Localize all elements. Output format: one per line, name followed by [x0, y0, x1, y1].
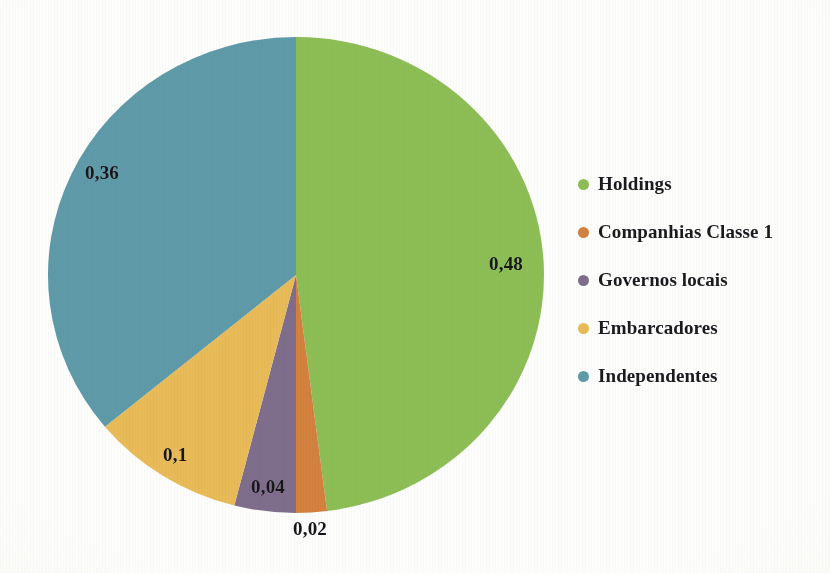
pie-slice-value-label: 0,48	[489, 253, 523, 275]
pie-slice-value-label: 0,04	[251, 476, 285, 498]
legend-item-label: Holdings	[598, 173, 672, 195]
pie-slice-value-label: 0,36	[85, 162, 119, 184]
legend-item[interactable]: Governos locais	[578, 256, 828, 304]
pie-chart-figure: 0,480,020,040,10,36 HoldingsCompanhias C…	[0, 0, 830, 573]
chart-legend: HoldingsCompanhias Classe 1Governos loca…	[578, 160, 828, 400]
legend-item[interactable]: Independentes	[578, 352, 828, 400]
pie-slices-group	[48, 37, 544, 513]
pie-slice-value-label: 0,1	[163, 444, 187, 466]
legend-item-label: Independentes	[598, 365, 718, 387]
legend-item[interactable]: Companhias Classe 1	[578, 208, 828, 256]
legend-color-swatch-icon	[578, 371, 589, 382]
legend-color-swatch-icon	[578, 323, 589, 334]
legend-item-label: Companhias Classe 1	[598, 221, 773, 243]
legend-item[interactable]: Embarcadores	[578, 304, 828, 352]
legend-item-label: Governos locais	[598, 269, 728, 291]
legend-item-label: Embarcadores	[598, 317, 718, 339]
legend-item[interactable]: Holdings	[578, 160, 828, 208]
legend-color-swatch-icon	[578, 275, 589, 286]
legend-color-swatch-icon	[578, 179, 589, 190]
legend-color-swatch-icon	[578, 227, 589, 238]
pie-slice-value-label: 0,02	[293, 518, 327, 540]
